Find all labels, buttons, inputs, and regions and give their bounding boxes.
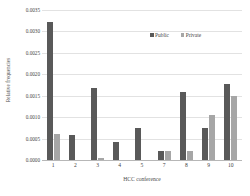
bar-private xyxy=(54,134,60,160)
y-axis-title-label: Relative frequencies xyxy=(5,58,11,103)
legend-item-label: Private xyxy=(186,32,201,38)
y-axis-tick-labels: 0.00350.00300.00250.00200.00150.00100.00… xyxy=(14,10,42,160)
square-marker-light-icon xyxy=(181,33,185,37)
x-axis-tick-label: 8 xyxy=(175,162,197,168)
y-axis-tick-label: 0.0020 xyxy=(26,71,40,77)
bar-public xyxy=(113,142,119,160)
bar-public xyxy=(91,88,97,160)
y-axis-tick-label: 0.0000 xyxy=(26,157,40,163)
bar-private xyxy=(187,151,193,160)
y-axis-tick-label: 0.0035 xyxy=(26,7,40,13)
bar-private xyxy=(209,115,215,160)
legend-item[interactable]: Private xyxy=(181,32,201,38)
y-axis-tick-label: 0.0010 xyxy=(26,114,40,120)
y-axis-tick-label: 0.0025 xyxy=(26,50,40,56)
x-axis-tick-label: 2 xyxy=(64,162,86,168)
legend-item-label: Public xyxy=(155,32,169,38)
square-marker-dark-icon xyxy=(150,33,154,37)
y-axis-title: Relative frequencies xyxy=(2,0,14,160)
bar-group xyxy=(64,10,86,160)
bar-public xyxy=(47,22,53,160)
bar-group xyxy=(42,10,64,160)
chart-legend: PublicPrivate xyxy=(150,32,201,38)
x-axis-title: HCC conference xyxy=(42,176,242,182)
y-axis-tick-label: 0.0030 xyxy=(26,28,40,34)
bar-public xyxy=(69,135,75,160)
bar-private xyxy=(165,151,171,160)
x-axis-tick-label: 9 xyxy=(198,162,220,168)
legend-item[interactable]: Public xyxy=(150,32,169,38)
bar-public xyxy=(158,151,164,160)
bar-chart: Relative frequencies 0.00350.00300.00250… xyxy=(0,0,250,196)
x-axis-tick-label: 10 xyxy=(220,162,242,168)
y-axis-tick-label: 0.0015 xyxy=(26,93,40,99)
x-axis-tick-label: 1 xyxy=(42,162,64,168)
bar-public xyxy=(202,128,208,160)
x-axis-tick-labels: 1234578910 xyxy=(42,162,242,168)
plot-area xyxy=(42,10,242,161)
bar-private xyxy=(98,158,104,160)
bar-private xyxy=(231,96,237,160)
x-axis-tick-label: 3 xyxy=(86,162,108,168)
bar-public xyxy=(224,84,230,160)
bar-public xyxy=(135,128,141,160)
y-axis-tick-label: 0.0005 xyxy=(26,136,40,142)
bar-public xyxy=(180,92,186,160)
bar-group xyxy=(86,10,108,160)
bar-group xyxy=(109,10,131,160)
bar-group xyxy=(220,10,242,160)
bars-layer xyxy=(42,10,242,160)
x-axis-tick-label: 7 xyxy=(153,162,175,168)
x-axis-tick-label: 5 xyxy=(131,162,153,168)
x-axis-tick-label: 4 xyxy=(109,162,131,168)
